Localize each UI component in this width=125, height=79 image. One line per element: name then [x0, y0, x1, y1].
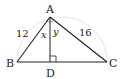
vertex-label-B: B: [6, 57, 14, 70]
angle-label-y: y: [52, 26, 59, 37]
triangle-figure: A B C D 12 16 x y: [0, 0, 125, 79]
geometry-diagram: A B C D 12 16 x y: [0, 0, 125, 79]
side-label-AB: 12: [16, 28, 29, 39]
angle-label-x: x: [41, 29, 47, 40]
circumcircle-arc: [17, 17, 107, 62]
angle-arc-y: [50, 20, 54, 22]
vertex-label-C: C: [109, 57, 117, 70]
right-angle-mark: [50, 56, 56, 62]
vertex-label-A: A: [45, 3, 55, 16]
vertex-label-D: D: [46, 67, 55, 79]
side-AC: [50, 17, 107, 62]
side-label-AC: 16: [79, 27, 92, 38]
